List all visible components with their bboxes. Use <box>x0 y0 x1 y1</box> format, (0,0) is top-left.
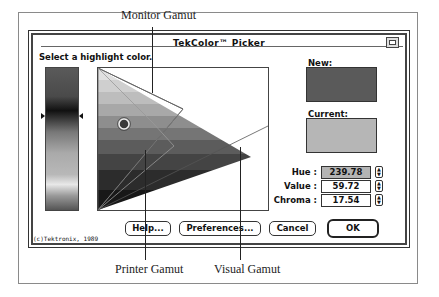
monitor-gamut-label: Monitor Gamut <box>121 8 196 23</box>
tekcolor-picker-dialog: TekColor™ Picker Select a highlight colo… <box>28 30 410 248</box>
value-stepper-icon[interactable]: ▲▼ <box>375 180 383 192</box>
monitor-gamut-callout-line <box>152 27 153 93</box>
chroma-field[interactable]: 17.54 <box>321 194 371 207</box>
cancel-button[interactable]: Cancel <box>269 221 316 236</box>
current-color-swatch[interactable] <box>306 118 377 153</box>
preferences-button[interactable]: Preferences... <box>179 221 261 236</box>
value-slider-strip[interactable] <box>45 67 79 211</box>
zoom-box-icon[interactable] <box>386 37 399 48</box>
slider-marker-left-icon[interactable] <box>41 113 45 119</box>
hue-label: Hue : <box>237 167 317 177</box>
visual-gamut-label: Visual Gamut <box>214 262 280 277</box>
printer-gamut-callout-line <box>145 150 146 260</box>
value-label: Value : <box>237 181 317 191</box>
value-field[interactable]: 59.72 <box>321 180 371 193</box>
ok-button[interactable]: OK <box>327 219 379 238</box>
chroma-label: Chroma : <box>237 195 317 205</box>
visual-gamut-callout-line <box>240 147 241 260</box>
new-color-swatch <box>306 67 377 102</box>
color-cursor-icon <box>119 119 129 129</box>
printer-gamut-label: Printer Gamut <box>115 262 183 277</box>
title-bar-rule <box>41 46 403 47</box>
hue-stepper-icon[interactable]: ▲▼ <box>375 166 383 178</box>
copyright-text: (c)Tektronix, 1989 <box>33 235 98 242</box>
prompt-text: Select a highlight color. <box>39 52 152 62</box>
help-button[interactable]: Help... <box>125 221 171 236</box>
hue-field[interactable]: 239.78 <box>321 166 371 179</box>
slider-marker-right-icon[interactable] <box>79 113 83 119</box>
chroma-stepper-icon[interactable]: ▲▼ <box>375 194 383 206</box>
